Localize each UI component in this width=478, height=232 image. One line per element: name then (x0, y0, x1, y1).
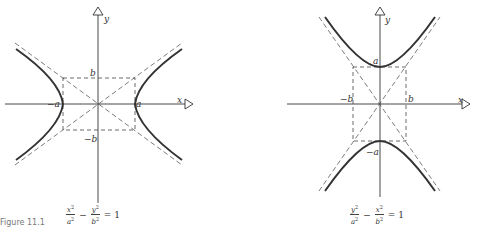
y-axis-label: y (103, 14, 110, 24)
hyperbola-diagrams: y x −a a b −b y x a −a −b b (0, 0, 478, 232)
vertex-label-right: a (136, 99, 141, 109)
figure-caption: Figure 11.1 (0, 218, 45, 227)
y-axis-arrow-icon (93, 7, 103, 15)
y-axis-arrow-icon (375, 7, 385, 15)
equation-left: x2 a2 − y2 b2 = 1 (66, 203, 120, 227)
x-axis-label: x (458, 95, 463, 105)
equation-right: y2 a2 − x2 b2 = 1 (350, 203, 404, 227)
x-axis-arrow-icon (185, 99, 193, 109)
vertex-label-top: a (373, 56, 378, 66)
vertex-label-left: −a (47, 99, 60, 109)
right-figure: y x a −a −b b (287, 7, 470, 197)
x-axis-arrow-icon (462, 99, 470, 109)
box-label-left: −b (340, 94, 354, 104)
x-axis-label: x (177, 95, 182, 105)
box-label-right: b (408, 94, 414, 104)
fraction-x-over-b: x2 b2 (375, 203, 384, 227)
hyperbola-right-branch (135, 49, 182, 160)
left-figure: y x −a a b −b (5, 7, 193, 203)
box-label-top: b (90, 68, 96, 78)
vertex-label-bottom: −a (366, 147, 379, 157)
fraction-y-over-b: y2 b2 (91, 203, 100, 227)
fraction-y-over-a: y2 a2 (350, 203, 359, 227)
box-label-bottom: −b (84, 134, 98, 144)
fraction-x-over-a: x2 a2 (66, 203, 75, 227)
y-axis-label: y (384, 15, 391, 25)
